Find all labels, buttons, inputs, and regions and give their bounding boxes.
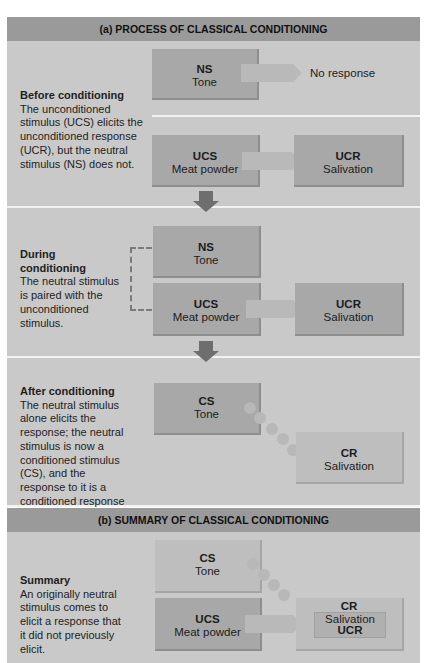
before-heading: Before conditioning <box>20 89 145 103</box>
before-text: The unconditioned stimulus (UCS) elicits… <box>20 103 143 170</box>
association-dot <box>244 402 256 414</box>
during-description: During conditioning The neutral stimulus… <box>20 248 120 330</box>
section-a-title: (a) PROCESS OF CLASSICAL CONDITIONING <box>7 17 420 41</box>
summary-text: An originally neutral stimulus comes to … <box>20 588 121 655</box>
summary-description: Summary An originally neutral stimulus c… <box>20 574 125 656</box>
ucr-box-before: UCR Salivation <box>294 135 404 187</box>
arrow-ns-to-none <box>241 64 293 82</box>
association-dot <box>247 558 259 570</box>
association-dot <box>258 569 270 581</box>
divider <box>152 115 420 117</box>
association-dot <box>268 579 280 591</box>
during-heading: During conditioning <box>20 248 120 275</box>
association-dot <box>278 589 290 601</box>
during-text: The neutral stimulus is paired with the … <box>20 275 119 328</box>
association-dot <box>277 433 289 445</box>
cs-box-summary: CS Tone <box>155 540 262 593</box>
association-dot <box>266 423 278 435</box>
summary-heading: Summary <box>20 574 125 588</box>
after-description: After conditioning The neutral stimulus … <box>20 385 130 522</box>
association-dot <box>254 412 266 424</box>
arrow-ucs-to-ucr <box>242 152 292 170</box>
arrow-ucs-to-cr <box>245 615 293 633</box>
cr-box-after: CR Salivation <box>296 432 404 484</box>
ucr-box-during: UCR Salivation <box>295 283 404 336</box>
arrow-ucs-to-ucr <box>246 300 293 318</box>
no-response-label: No response <box>310 67 375 79</box>
pairing-bracket <box>130 247 152 311</box>
after-heading: After conditioning <box>20 385 130 399</box>
after-text: The neutral stimulus alone elicits the r… <box>20 399 125 521</box>
section-b-title: (b) SUMMARY OF CLASSICAL CONDITIONING <box>7 508 420 532</box>
ucs-box-during: UCS Meat powder <box>153 283 261 336</box>
before-description: Before conditioning The unconditioned st… <box>20 89 145 171</box>
ucr-inner-box: Salivation UCR <box>314 612 386 638</box>
ns-box-during: NS Tone <box>153 226 261 278</box>
cr-box-summary: CR Salivation UCR <box>296 598 404 651</box>
